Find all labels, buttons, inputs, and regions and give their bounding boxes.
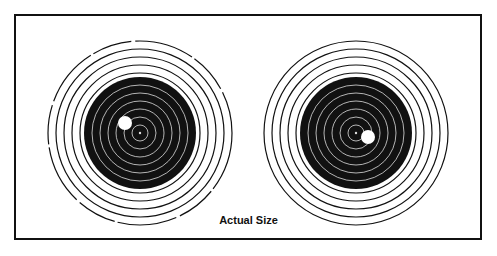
right-target xyxy=(264,41,448,225)
figure-caption: Actual Size xyxy=(0,214,497,226)
shot-hole xyxy=(361,130,375,144)
shot-hole xyxy=(118,116,132,130)
left-target xyxy=(48,41,232,225)
